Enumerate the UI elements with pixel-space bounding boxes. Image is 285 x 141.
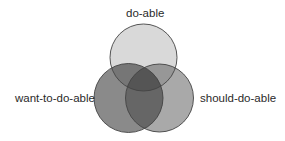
label-do-able: do-able xyxy=(126,7,164,19)
venn-diagram: do-able want-to-do-able should-do-able xyxy=(0,0,285,141)
label-should-do-able: should-do-able xyxy=(200,92,276,104)
venn-svg xyxy=(0,0,285,141)
label-want-to-do-able: want-to-do-able xyxy=(15,92,95,104)
